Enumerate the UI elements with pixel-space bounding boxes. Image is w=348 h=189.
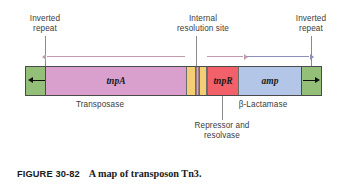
inverted-repeat-left-arrow-icon: [33, 80, 45, 81]
figure-title: A map of transposon Tn3.: [89, 168, 202, 179]
figure-number: FIGURE 30-82: [17, 169, 80, 179]
leader-internal-resolution-site: [196, 36, 197, 66]
label-inverted-repeat-right: Inverted repeat: [280, 14, 342, 33]
segment-internal-resolution-site-left: [186, 67, 196, 95]
segment-tnpr: [207, 67, 239, 95]
transcription-arrow-amp: [247, 56, 309, 57]
transcription-arrow-tnpr: [207, 56, 243, 57]
leader-inverted-repeat-right: [311, 36, 312, 66]
leader-inverted-repeat-left: [45, 36, 46, 66]
label-repressor-and-resolvase: Repressor and resolvase: [169, 121, 275, 140]
transcription-arrow-tnpa: [47, 56, 185, 57]
segment-tnpa: [46, 67, 186, 95]
label-internal-resolution-site: Internal resolution site: [147, 14, 259, 33]
leader-repressor-resolvase: [222, 96, 223, 120]
transposon-map-bar: tnpA tnpR amp: [25, 66, 322, 96]
label-beta-lactamase: β-Lactamase: [222, 100, 304, 110]
label-inverted-repeat-left: Inverted repeat: [14, 14, 76, 33]
figure-transposon-tn3: Inverted repeat Internal resolution site…: [0, 0, 348, 189]
segment-amp: [239, 67, 301, 95]
figure-caption: FIGURE 30-82A map of transposon Tn3.: [17, 163, 201, 181]
inverted-repeat-right-arrow-icon: [303, 80, 315, 81]
label-transposase: Transposase: [55, 100, 145, 110]
segment-internal-resolution-site-right: [199, 67, 207, 95]
